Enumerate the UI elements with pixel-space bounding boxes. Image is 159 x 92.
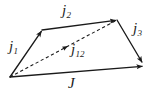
label-J: J bbox=[68, 75, 75, 92]
label-j3-subscript: 3 bbox=[137, 28, 142, 38]
label-J-base: J bbox=[68, 75, 75, 91]
label-j2-subscript: 2 bbox=[66, 10, 71, 20]
vector-j2-line bbox=[42, 20, 115, 30]
label-j12: j12 bbox=[71, 41, 84, 59]
vector-J-line bbox=[10, 66, 142, 77]
label-j3: j3 bbox=[133, 20, 142, 38]
label-j1: j1 bbox=[9, 38, 18, 56]
label-j12-subscript: 12 bbox=[75, 49, 84, 59]
label-j1-subscript: 1 bbox=[13, 46, 18, 56]
label-j2: j2 bbox=[62, 2, 71, 20]
vector-diagram-figure: j1 j2 j3 j12 J bbox=[0, 0, 159, 92]
vector-j12-dashed-line bbox=[10, 20, 117, 77]
